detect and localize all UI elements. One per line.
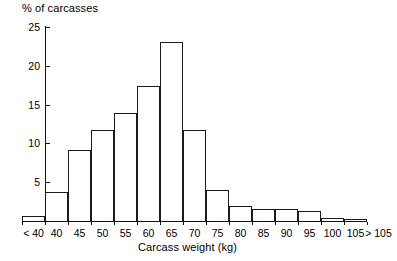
x-tick-13	[321, 222, 322, 225]
bar-70	[183, 130, 206, 221]
bar-85	[252, 209, 275, 221]
x-tick-2	[68, 222, 69, 225]
x-axis-title: Carcass weight (kg)	[0, 241, 375, 253]
bar-55	[114, 113, 137, 221]
bar-80	[229, 206, 252, 221]
x-axis-line	[22, 221, 367, 222]
y-tick-25	[46, 27, 50, 28]
bar-65	[160, 42, 183, 221]
y-tick-label-20: 20	[16, 61, 40, 71]
x-tick-10	[252, 222, 253, 225]
y-tick-label-10: 10	[16, 138, 40, 148]
x-tick-15	[367, 222, 368, 225]
bar-40	[45, 192, 68, 221]
y-tick-label-25: 25	[16, 22, 40, 32]
x-tick-3	[91, 222, 92, 225]
x-tick-5	[137, 222, 138, 225]
y-tick-5	[46, 182, 50, 183]
bar-75	[206, 190, 229, 221]
x-tick-11	[275, 222, 276, 225]
x-tick-9	[229, 222, 230, 225]
bar-90	[275, 209, 298, 221]
bar-60	[137, 86, 160, 221]
x-tick-0	[22, 222, 23, 225]
x-tick-1	[45, 222, 46, 225]
x-tick-4	[114, 222, 115, 225]
bar-45	[68, 150, 91, 221]
x-tick-12	[298, 222, 299, 225]
x-tick-6	[160, 222, 161, 225]
x-tick-label-105: > 105	[359, 227, 397, 239]
x-tick-7	[183, 222, 184, 225]
bar-95	[298, 211, 321, 221]
x-tick-14	[344, 222, 345, 225]
y-tick-15	[46, 105, 50, 106]
x-tick-8	[206, 222, 207, 225]
bar-105	[344, 219, 367, 221]
bar-100	[321, 218, 344, 221]
y-tick-label-15: 15	[16, 100, 40, 110]
y-tick-20	[46, 66, 50, 67]
bar-50	[91, 130, 114, 221]
y-tick-label-5: 5	[16, 177, 40, 187]
y-tick-10	[46, 143, 50, 144]
bar-40	[22, 216, 45, 221]
